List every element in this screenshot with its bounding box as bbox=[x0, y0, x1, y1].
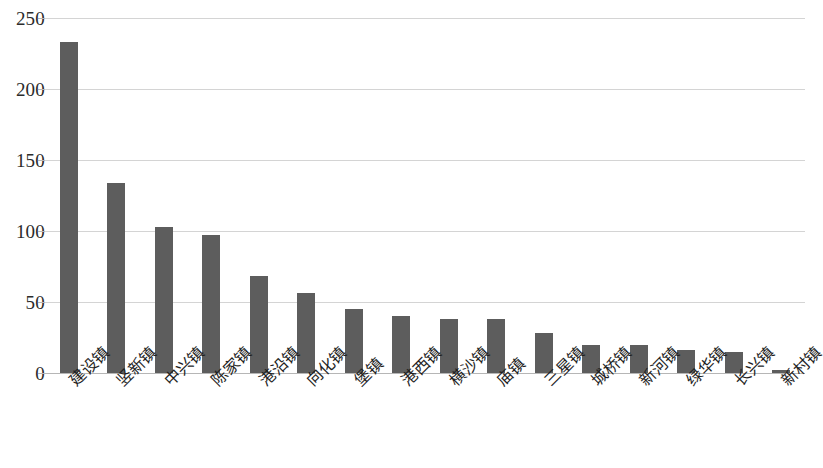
x-tick-label: 竖新镇 bbox=[114, 378, 125, 389]
x-tick-label: 新村镇 bbox=[779, 378, 790, 389]
y-tick-mark bbox=[38, 18, 45, 19]
x-tick-label: 堡镇 bbox=[352, 378, 363, 389]
y-axis: 050100150200250 bbox=[0, 18, 45, 373]
y-tick-mark bbox=[38, 231, 45, 232]
bar bbox=[107, 183, 125, 373]
x-tick-label: 庙镇 bbox=[494, 378, 505, 389]
x-tick-label: 陈家镇 bbox=[209, 378, 220, 389]
gridline bbox=[45, 18, 805, 19]
plot-area bbox=[45, 18, 805, 373]
bar bbox=[60, 42, 78, 373]
x-tick-label: 长兴镇 bbox=[732, 378, 743, 389]
x-tick-label: 港西镇 bbox=[399, 378, 410, 389]
y-tick-mark bbox=[38, 160, 45, 161]
x-tick-label: 城桥镇 bbox=[589, 378, 600, 389]
y-tick-mark bbox=[38, 89, 45, 90]
x-tick-label: 中兴镇 bbox=[162, 378, 173, 389]
x-tick-label: 港沿镇 bbox=[257, 378, 268, 389]
gridline bbox=[45, 160, 805, 161]
gridline bbox=[45, 89, 805, 90]
x-tick-label: 向化镇 bbox=[304, 378, 315, 389]
bar bbox=[155, 227, 173, 373]
y-tick-mark bbox=[38, 302, 45, 303]
x-tick-label: 绿华镇 bbox=[684, 378, 695, 389]
x-tick-label: 建设镇 bbox=[67, 378, 78, 389]
x-tick-label: 三星镇 bbox=[542, 378, 553, 389]
bar bbox=[297, 293, 315, 373]
bar bbox=[392, 316, 410, 373]
bar bbox=[440, 319, 458, 373]
x-tick-label: 新河镇 bbox=[637, 378, 648, 389]
y-tick-mark bbox=[38, 373, 45, 374]
bar-chart: 050100150200250 建设镇竖新镇中兴镇陈家镇港沿镇向化镇堡镇港西镇横… bbox=[0, 0, 823, 468]
x-tick-label: 横沙镇 bbox=[447, 378, 458, 389]
bar bbox=[345, 309, 363, 373]
